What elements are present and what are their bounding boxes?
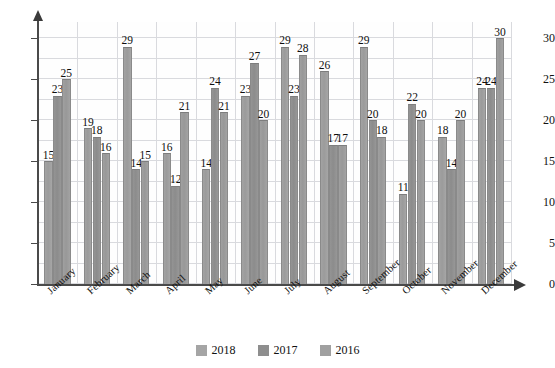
bar-value-label: 29	[358, 35, 370, 47]
bar[interactable]: 28	[299, 55, 307, 284]
bar-group: 112220	[399, 22, 426, 284]
bar[interactable]: 24	[211, 88, 219, 285]
bar[interactable]: 24	[487, 88, 495, 285]
y-axis-tick-label: 20	[531, 114, 555, 126]
bar[interactable]: 18	[377, 137, 385, 284]
bar[interactable]: 14	[202, 169, 210, 284]
legend-swatch	[320, 345, 331, 356]
bar-value-label: 15	[139, 150, 151, 162]
bar[interactable]: 20	[417, 120, 425, 284]
bar-group: 181420	[438, 22, 465, 284]
bar-value-label: 26	[319, 60, 331, 72]
y-axis-tick-label: 25	[531, 73, 555, 85]
gridline-vertical	[511, 22, 512, 284]
bar-value-label: 28	[297, 43, 309, 55]
bar-value-label: 22	[406, 92, 418, 104]
y-axis-arrow-icon	[33, 10, 43, 21]
bar-group: 161221	[163, 22, 190, 284]
bar-value-label: 20	[258, 109, 270, 121]
bar[interactable]: 14	[447, 169, 455, 284]
bar-value-label: 21	[218, 101, 230, 113]
chart-title	[0, 0, 555, 9]
bar[interactable]: 16	[102, 153, 110, 284]
bar[interactable]: 19	[84, 128, 92, 284]
y-axis-tick	[31, 243, 37, 244]
y-axis-tick	[31, 202, 37, 203]
bar-chart: 051015202530 152325191816291415161221142…	[0, 0, 555, 368]
y-axis-tick	[31, 38, 37, 39]
bar-value-label: 24	[209, 76, 221, 88]
bar[interactable]: 20	[456, 120, 464, 284]
bar[interactable]: 26	[320, 71, 328, 284]
bars-layer: 1523251918162914151612211424212327202923…	[38, 22, 511, 284]
y-axis-tick-label: 30	[531, 32, 555, 44]
bar[interactable]: 25	[62, 79, 70, 284]
bar-value-label: 21	[179, 101, 191, 113]
bar-value-label: 25	[61, 68, 73, 80]
legend-swatch	[196, 345, 207, 356]
y-axis-tick	[31, 161, 37, 162]
y-axis-tick	[31, 120, 37, 121]
bar[interactable]: 27	[250, 63, 258, 284]
legend-label: 2017	[274, 344, 298, 356]
y-axis-tick-label: 5	[531, 237, 555, 249]
bar-value-label: 17	[337, 133, 349, 145]
bar[interactable]: 12	[171, 186, 179, 284]
bar-value-label: 18	[91, 125, 103, 137]
bar[interactable]: 15	[141, 161, 149, 284]
bar-group: 292328	[281, 22, 308, 284]
bar[interactable]: 15	[44, 161, 52, 284]
bar-group: 261717	[320, 22, 347, 284]
bar[interactable]: 18	[93, 137, 101, 284]
bar[interactable]: 23	[290, 96, 298, 284]
legend-label: 2016	[336, 344, 360, 356]
bar-value-label: 30	[494, 27, 506, 39]
bar[interactable]: 22	[408, 104, 416, 284]
bar[interactable]: 14	[132, 169, 140, 284]
legend-item[interactable]: 2016	[320, 344, 360, 356]
bar[interactable]: 29	[360, 47, 368, 284]
bar[interactable]: 21	[180, 112, 188, 284]
y-axis-tick-label: 10	[531, 196, 555, 208]
bar-value-label: 16	[161, 142, 173, 154]
x-axis-labels: JanuaryFebruaryMarchAprilMayJuneJulyAugu…	[38, 288, 511, 340]
bar[interactable]: 29	[281, 47, 289, 284]
bar-value-label: 29	[279, 35, 291, 47]
y-axis-tick-label: 15	[531, 155, 555, 167]
y-axis-tick	[31, 79, 37, 80]
bar-value-label: 18	[437, 125, 449, 137]
bar-value-label: 20	[367, 109, 379, 121]
bar[interactable]: 23	[53, 96, 61, 284]
bar[interactable]: 30	[496, 38, 504, 284]
bar-group: 232720	[241, 22, 268, 284]
bar[interactable]: 21	[220, 112, 228, 284]
bar[interactable]: 17	[329, 145, 337, 284]
bar-group: 191816	[84, 22, 111, 284]
bar-group: 152325	[44, 22, 71, 284]
bar[interactable]: 20	[369, 120, 377, 284]
chart-legend: 201820172016	[0, 344, 555, 356]
bar-value-label: 20	[455, 109, 467, 121]
legend-item[interactable]: 2017	[258, 344, 298, 356]
bar[interactable]: 24	[478, 88, 486, 285]
bar-value-label: 18	[376, 125, 388, 137]
legend-label: 2018	[212, 344, 236, 356]
bar-group: 142421	[202, 22, 229, 284]
bar-group: 292018	[360, 22, 387, 284]
bar-value-label: 27	[249, 51, 261, 63]
bar[interactable]: 11	[399, 194, 407, 284]
y-axis-tick	[31, 284, 37, 285]
bar-value-label: 20	[415, 109, 427, 121]
bar[interactable]: 20	[259, 120, 267, 284]
bar-value-label: 29	[122, 35, 134, 47]
bar-group: 242430	[478, 22, 505, 284]
bar-group: 291415	[123, 22, 150, 284]
x-axis-arrow-icon	[514, 279, 526, 291]
y-axis-tick-label: 0	[531, 278, 555, 290]
legend-swatch	[258, 345, 269, 356]
bar-value-label: 16	[100, 142, 112, 154]
bar[interactable]: 17	[338, 145, 346, 284]
legend-item[interactable]: 2018	[196, 344, 236, 356]
bar[interactable]: 23	[241, 96, 249, 284]
